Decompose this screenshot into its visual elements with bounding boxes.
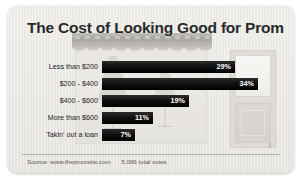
bar: 7% (102, 129, 135, 141)
chart-row: $400 - $600 19% (27, 95, 275, 107)
source-text: Source: www.thepromsite.com (27, 158, 111, 165)
infographic-card: The Cost of Looking Good for Prom Less t… (0, 0, 302, 180)
footer-caption: Source: www.thepromsite.com 5,086 total … (27, 158, 167, 165)
bar-category-label: Takin' out a loan (27, 129, 98, 141)
bar-value-label: 29% (217, 61, 231, 73)
card-surface: The Cost of Looking Good for Prom Less t… (8, 6, 294, 173)
bar: 34% (102, 78, 258, 90)
bar-category-label: Less than $200 (27, 61, 98, 73)
page-title: The Cost of Looking Good for Prom (27, 19, 284, 37)
bar-value-label: 11% (135, 112, 149, 124)
bar-value-label: 19% (171, 95, 185, 107)
chart-row: Less than $200 29% (27, 61, 275, 73)
bar: 29% (102, 61, 235, 73)
bar-category-label: More than $600 (27, 112, 98, 124)
bar: 19% (102, 95, 189, 107)
bar-category-label: $400 - $600 (27, 95, 98, 107)
chart-row: More than $600 11% (27, 112, 275, 124)
total-votes-text: 5,086 total votes (121, 158, 166, 165)
bar-chart: Less than $200 29% $200 - $400 34% $400 … (27, 61, 275, 143)
bar-category-label: $200 - $400 (27, 78, 98, 90)
bar-value-label: 34% (240, 78, 254, 90)
bar-value-label: 7% (121, 129, 131, 141)
chart-row: Takin' out a loan 7% (27, 129, 275, 141)
footer-divider (22, 154, 280, 155)
bar: 11% (102, 112, 153, 124)
chart-row: $200 - $400 34% (27, 78, 275, 90)
